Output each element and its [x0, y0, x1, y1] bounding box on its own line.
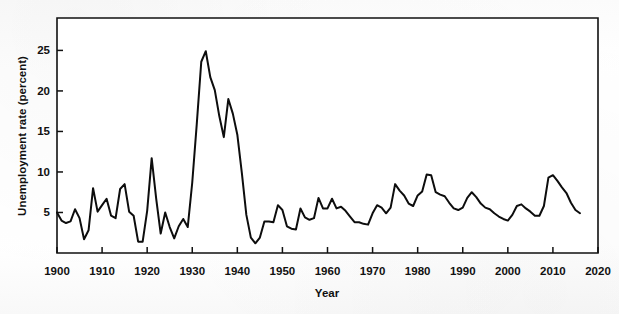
- y-axis-title: Unemployment rate (percent): [16, 56, 28, 216]
- x-tick-label: 1990: [450, 265, 476, 277]
- x-tick-label: 1910: [89, 265, 115, 277]
- y-tick-label: 20: [37, 85, 50, 97]
- x-tick-label: 1920: [134, 265, 160, 277]
- y-tick-label: 25: [37, 44, 50, 56]
- x-tick-label: 1950: [270, 265, 296, 277]
- x-tick-label: 1930: [179, 265, 205, 277]
- unemployment-line-chart: 510152025 190019101920193019401950196019…: [0, 0, 619, 314]
- y-tick-label: 10: [37, 166, 50, 178]
- figure-page: 510152025 190019101920193019401950196019…: [0, 0, 619, 314]
- x-tick-label: 1970: [360, 265, 386, 277]
- y-tick-label: 15: [37, 125, 50, 137]
- x-axis-title: Year: [315, 287, 340, 299]
- x-tick-label: 1980: [405, 265, 431, 277]
- x-tick-label: 2010: [540, 265, 566, 277]
- x-tick-label: 2000: [495, 265, 521, 277]
- x-tick-label: 1960: [315, 265, 341, 277]
- x-tick-label: 1900: [44, 265, 70, 277]
- plot-background: [57, 18, 598, 253]
- x-tick-label: 1940: [225, 265, 251, 277]
- y-tick-label: 5: [44, 206, 51, 218]
- x-tick-label: 2020: [585, 265, 611, 277]
